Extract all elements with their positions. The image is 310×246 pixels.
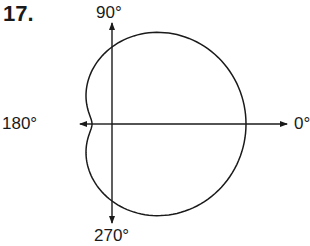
label-90-degrees: 90°: [96, 4, 122, 21]
label-0-degrees: 0°: [294, 115, 310, 132]
problem-number: 17.: [3, 3, 34, 25]
polar-graph-canvas: [0, 0, 310, 246]
polar-graph-figure: 17. 90° 180° 0° 270°: [0, 0, 310, 246]
label-180-degrees: 180°: [2, 115, 37, 132]
label-270-degrees: 270°: [94, 227, 129, 244]
